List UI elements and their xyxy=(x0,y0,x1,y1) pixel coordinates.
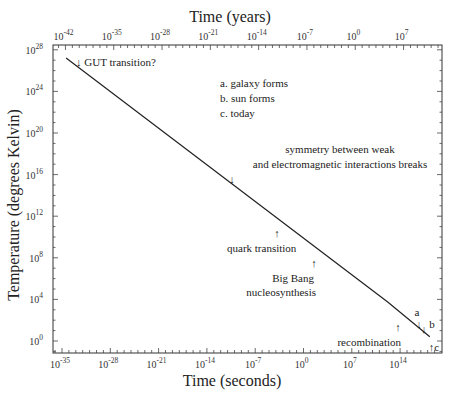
marker-b-label: b xyxy=(429,318,435,330)
y-tick-label: 1024 xyxy=(26,83,44,97)
legend-sun-forms: b. sun forms xyxy=(220,92,275,104)
legend-today: c. today xyxy=(220,107,255,119)
y-tick-label: 1028 xyxy=(26,42,44,56)
x-tick-label: 10-7 xyxy=(245,356,261,370)
x2-tick-label: 10-14 xyxy=(247,28,267,42)
y-axis-title: Temperature (degrees Kelvin) xyxy=(5,109,23,301)
annotation-recombination: recombination xyxy=(337,336,401,348)
y-tick-label: 1020 xyxy=(26,125,44,139)
marker-c-label: ↑c xyxy=(429,341,440,353)
y-tick-label: 108 xyxy=(29,250,43,264)
y-tick-label: 1016 xyxy=(26,167,44,181)
x2-tick-label: 10-42 xyxy=(53,28,73,42)
x2-tick-label: 10-21 xyxy=(198,28,218,42)
arrow-up-icon: ↑ xyxy=(311,257,317,269)
x-tick-label: 107 xyxy=(343,356,357,370)
x-tick-label: 100 xyxy=(295,356,309,370)
arrow-down-icon: ↓ xyxy=(229,173,235,185)
x-tick-label: 10-35 xyxy=(50,356,70,370)
annotation-quark-transition: quark transition xyxy=(227,242,297,254)
arrow-up-icon: ↑ xyxy=(395,321,401,333)
x2-tick-label: 10-7 xyxy=(297,28,313,42)
y-axis-tick-labels: 10281024102010161012108104100 xyxy=(26,42,44,347)
x-axis-top-tick-labels: 10-4210-3510-2810-2110-1410-7100107 xyxy=(53,28,408,42)
annotation-electroweak-line2: and electromagnetic interactions breaks xyxy=(253,158,427,170)
annotation-electroweak-line1: symmetry between weak xyxy=(285,143,395,155)
x2-tick-label: 107 xyxy=(395,28,409,42)
x-tick-label: 10-14 xyxy=(195,356,215,370)
x-tick-label: 10-21 xyxy=(147,356,167,370)
chart-canvas: 10-3510-2810-2110-1410-71001071014 10-42… xyxy=(0,0,454,398)
legend-galaxy-forms: a. galaxy forms xyxy=(220,77,288,89)
x-axis-title: Time (seconds) xyxy=(183,372,282,390)
x2-tick-label: 10-35 xyxy=(102,28,122,42)
arrow-up-icon: ↑ xyxy=(274,227,280,239)
x-axis-bottom-tick-labels: 10-3510-2810-2110-1410-71001071014 xyxy=(50,356,407,370)
x2-axis-title: Time (years) xyxy=(189,8,271,26)
y-tick-label: 104 xyxy=(29,291,43,305)
marker-a-label: a xyxy=(415,306,420,318)
x-tick-label: 1014 xyxy=(389,356,407,370)
y-tick-label: 100 xyxy=(29,333,43,347)
annotation-bbn-line1: Big Bang xyxy=(272,272,314,284)
x2-tick-label: 100 xyxy=(346,28,360,42)
annotation-gut-transition: ↓ GUT transition? xyxy=(76,56,156,68)
x2-tick-label: 10-28 xyxy=(150,28,170,42)
annotation-bbn-line2: nucleosynthesis xyxy=(246,286,316,298)
arrow-down-icon: ↓ xyxy=(421,323,427,335)
y-tick-label: 1012 xyxy=(26,208,44,222)
x-tick-label: 10-28 xyxy=(98,356,118,370)
